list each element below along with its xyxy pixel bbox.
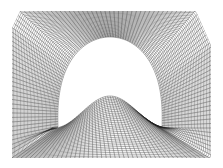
mesh-line [155, 26, 203, 71]
mesh-line [43, 31, 172, 134]
mesh-line [154, 22, 201, 69]
mesh-line [45, 32, 172, 134]
mesh-line [12, 128, 55, 144]
mesh-line [70, 111, 82, 158]
mesh-line [92, 103, 93, 158]
mesh-line [51, 36, 163, 128]
mesh-line [158, 43, 210, 81]
mesh-line [47, 34, 169, 132]
mesh-line [162, 124, 211, 126]
mesh-line [52, 37, 162, 128]
mesh-line [46, 33, 170, 133]
mesh-lines [12, 11, 211, 158]
mesh-line [124, 101, 156, 158]
mesh-figure [0, 0, 223, 168]
mesh-line [148, 11, 186, 59]
mesh-line [49, 35, 166, 130]
mesh-line [12, 113, 58, 114]
mesh-line [50, 36, 165, 130]
mesh-grid [0, 0, 223, 168]
mesh-line [18, 15, 70, 61]
mesh-line [120, 98, 147, 158]
